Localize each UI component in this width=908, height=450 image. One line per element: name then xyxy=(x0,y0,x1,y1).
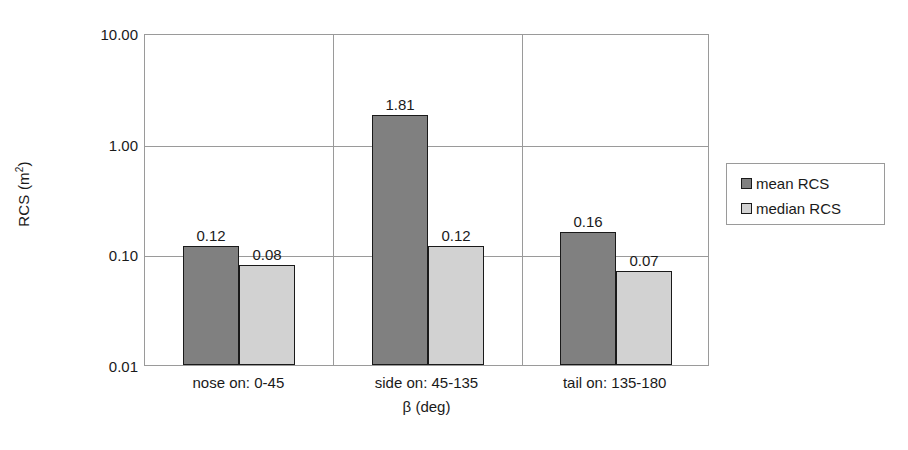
legend-item-label: median RCS xyxy=(756,201,841,216)
chart-figure: RCS (m2) 10.001.000.100.01 0.120.081.810… xyxy=(0,0,908,450)
y-axis-tick-label: 1.00 xyxy=(66,138,138,153)
bar-value-label: 0.07 xyxy=(610,253,678,268)
bar xyxy=(560,232,616,365)
x-axis-category-labels: nose on: 0-45side on: 45-135tail on: 135… xyxy=(144,374,709,396)
x-axis-title: β (deg) xyxy=(144,398,709,415)
bar xyxy=(183,246,239,365)
bar-value-label: 0.12 xyxy=(177,228,245,243)
legend-item[interactable]: median RCS xyxy=(741,199,841,217)
y-axis-title-superscript: 2 xyxy=(14,166,25,172)
y-axis-title: RCS (m2) xyxy=(14,124,32,264)
legend-swatch-icon xyxy=(741,203,752,214)
y-axis-title-text: RCS (m xyxy=(15,172,32,227)
legend-swatch-icon xyxy=(741,178,752,189)
legend-item-label: mean RCS xyxy=(756,176,829,191)
bar xyxy=(428,246,484,365)
bar xyxy=(239,265,295,365)
y-axis-tick-label: 0.01 xyxy=(66,359,138,374)
gridline-category-separator xyxy=(522,35,523,365)
x-axis-category-label: tail on: 135-180 xyxy=(502,374,728,392)
legend-item[interactable]: mean RCS xyxy=(741,174,829,192)
plot-area: 0.120.081.810.120.160.07 xyxy=(144,34,709,366)
bar xyxy=(372,115,428,365)
y-axis-tick-label: 10.00 xyxy=(66,27,138,42)
bar xyxy=(616,271,672,365)
y-axis-tick-label: 0.10 xyxy=(66,248,138,263)
bar-value-label: 0.08 xyxy=(233,247,301,262)
bar-value-label: 0.12 xyxy=(422,228,490,243)
gridline-category-separator xyxy=(333,35,334,365)
bar-value-label: 0.16 xyxy=(554,214,622,229)
legend: mean RCSmedian RCS xyxy=(726,163,885,225)
bar-value-label: 1.81 xyxy=(366,97,434,112)
y-axis-title-close-paren: ) xyxy=(15,161,32,166)
